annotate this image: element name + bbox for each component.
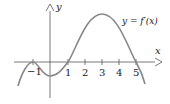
tick-label-neg1: −1 [27,66,42,77]
tick-label-5: 5 [133,67,139,78]
graph: −1 1 2 3 4 5 y x y = f′(x) [0,0,170,104]
tick-label-2: 2 [82,67,88,78]
curve-label: y = f′(x) [121,16,158,26]
tick-label-4: 4 [116,67,122,78]
x-axis-label: x [155,45,161,56]
x-axis-arrow-icon [155,58,162,66]
y-axis-arrow-icon [46,4,54,11]
tick-label-3: 3 [99,67,105,78]
y-axis-label: y [55,1,62,12]
tick-label-1: 1 [65,67,71,78]
